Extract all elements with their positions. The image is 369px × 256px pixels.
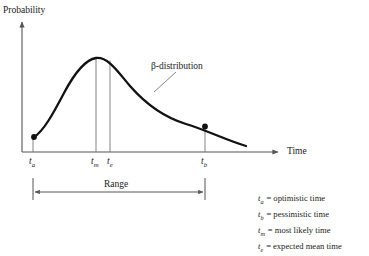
tick-label-tb: tb	[201, 157, 207, 169]
legend-block: ta=optimistic time tb=pessimistic time t…	[258, 192, 342, 256]
legend-equals-tm: =	[265, 225, 275, 235]
legend-symbol-tm: tm	[258, 225, 265, 235]
curve-marker-ta	[31, 134, 37, 140]
tick-subscript-tb: b	[204, 161, 207, 168]
legend-item-te: te=expected mean time	[258, 240, 342, 256]
legend-text-tb: pessimistic time	[273, 209, 329, 219]
beta-distribution-label: β-distribution	[151, 62, 203, 72]
tick-subscript-tm: m	[94, 161, 99, 168]
legend-item-ta: ta=optimistic time	[258, 192, 342, 208]
legend-text-te: expected mean time	[273, 241, 342, 251]
legend-equals-te: =	[263, 241, 273, 251]
tick-label-ta: ta	[29, 157, 35, 169]
legend-text-ta: optimistic time	[273, 193, 325, 203]
beta-distribution-curve	[33, 58, 246, 146]
tick-subscript-ta: a	[32, 161, 35, 168]
tick-label-tm: tm	[91, 157, 99, 169]
x-axis-title: Time	[287, 147, 307, 157]
legend-item-tb: tb=pessimistic time	[258, 208, 342, 224]
legend-equals-ta: =	[263, 193, 273, 203]
curve-marker-tb	[202, 124, 208, 130]
tick-subscript-te: e	[110, 161, 113, 168]
legend-item-tm: tm=most likely time	[258, 224, 342, 240]
legend-text-tm: most likely time	[275, 225, 331, 235]
curve-label-leader-line	[154, 72, 176, 92]
legend-equals-tb: =	[263, 209, 273, 219]
tick-label-te: te	[107, 157, 113, 169]
y-axis-title: Probability	[3, 6, 45, 16]
range-label: Range	[104, 180, 128, 190]
